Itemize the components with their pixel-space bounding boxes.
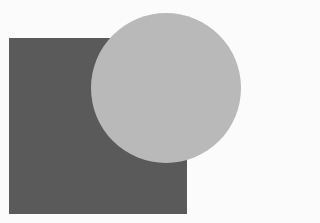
light-circle [91, 13, 241, 163]
